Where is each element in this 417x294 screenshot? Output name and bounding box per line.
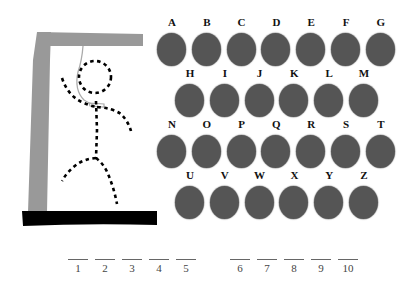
letter-key-b[interactable]: B: [192, 16, 222, 66]
letter-key-label: S: [331, 118, 361, 131]
letter-key-n[interactable]: N: [157, 118, 187, 168]
letter-key-t[interactable]: T: [366, 118, 396, 168]
blank-position-number: 4: [149, 262, 169, 275]
letter-key-button[interactable]: [296, 33, 325, 66]
letter-key-button[interactable]: [210, 186, 239, 219]
letter-key-button[interactable]: [245, 186, 274, 219]
blank-position-number: 10: [338, 262, 358, 275]
letter-key-label: C: [227, 16, 257, 29]
blank-underline: [257, 259, 277, 260]
letter-key-s[interactable]: S: [331, 118, 361, 168]
letter-key-button[interactable]: [279, 186, 308, 219]
gallows-post: [28, 32, 51, 212]
blank-underline: [149, 259, 169, 260]
letter-key-button[interactable]: [279, 84, 308, 117]
letter-key-button[interactable]: [157, 135, 186, 168]
blank-position-number: 3: [122, 262, 142, 275]
letter-key-label: D: [261, 16, 291, 29]
letter-key-button[interactable]: [366, 135, 395, 168]
gallows-drawing: [0, 0, 160, 235]
letter-key-g[interactable]: G: [366, 16, 396, 66]
letter-key-z[interactable]: Z: [349, 169, 379, 219]
blank-position-number: 6: [230, 262, 250, 275]
letter-key-button[interactable]: [192, 33, 221, 66]
letter-key-button[interactable]: [314, 84, 343, 117]
letter-blank-7: 7: [257, 259, 277, 281]
letter-key-button[interactable]: [227, 33, 256, 66]
letter-key-label: B: [192, 16, 222, 29]
letter-key-button[interactable]: [192, 135, 221, 168]
letter-key-f[interactable]: F: [331, 16, 361, 66]
blank-underline: [95, 259, 115, 260]
letter-key-m[interactable]: M: [349, 67, 379, 117]
letter-blank-3: 3: [122, 259, 142, 281]
letter-key-w[interactable]: W: [245, 169, 275, 219]
letter-key-y[interactable]: Y: [314, 169, 344, 219]
letter-key-button[interactable]: [227, 135, 256, 168]
letter-key-button[interactable]: [349, 186, 378, 219]
letter-key-x[interactable]: X: [279, 169, 309, 219]
letter-key-button[interactable]: [331, 33, 360, 66]
letter-key-label: I: [210, 67, 240, 80]
letter-key-button[interactable]: [261, 33, 290, 66]
figure-body: [96, 101, 97, 158]
letter-key-label: Z: [349, 169, 379, 182]
figure-right-leg: [96, 158, 117, 204]
blank-underline: [68, 259, 88, 260]
letter-key-button[interactable]: [175, 186, 204, 219]
blank-underline: [230, 259, 250, 260]
letter-key-label: V: [210, 169, 240, 182]
blank-position-number: 9: [311, 262, 331, 275]
letter-key-a[interactable]: A: [157, 16, 187, 66]
letter-key-label: Q: [261, 118, 291, 131]
letter-key-label: Y: [314, 169, 344, 182]
letter-key-q[interactable]: Q: [261, 118, 291, 168]
blank-underline: [176, 259, 196, 260]
letter-key-label: K: [279, 67, 309, 80]
letter-key-label: A: [157, 16, 187, 29]
letter-key-j[interactable]: J: [245, 67, 275, 117]
letter-key-label: E: [296, 16, 326, 29]
letter-key-button[interactable]: [349, 84, 378, 117]
figure-right-arm: [97, 107, 131, 131]
letter-key-c[interactable]: C: [227, 16, 257, 66]
letter-key-button[interactable]: [314, 186, 343, 219]
hangman-game: ABCDEFGHIJKLMNOPQRSTUVWXYZ 12345678910: [0, 0, 417, 294]
blank-underline: [311, 259, 331, 260]
letter-key-label: F: [331, 16, 361, 29]
letter-key-button[interactable]: [331, 135, 360, 168]
letter-key-label: P: [227, 118, 257, 131]
letter-blank-6: 6: [230, 259, 250, 281]
letter-key-label: J: [245, 67, 275, 80]
letter-key-label: X: [279, 169, 309, 182]
letter-key-button[interactable]: [296, 135, 325, 168]
letter-key-d[interactable]: D: [261, 16, 291, 66]
letter-blank-5: 5: [176, 259, 196, 281]
letter-key-button[interactable]: [261, 135, 290, 168]
figure-left-leg: [62, 158, 96, 181]
letter-key-label: W: [245, 169, 275, 182]
letter-key-h[interactable]: H: [175, 67, 205, 117]
letter-key-button[interactable]: [210, 84, 239, 117]
letter-blank-4: 4: [149, 259, 169, 281]
letter-key-label: O: [192, 118, 222, 131]
gallows-beam: [37, 32, 143, 46]
letter-blank-10: 10: [338, 259, 358, 281]
letter-key-i[interactable]: I: [210, 67, 240, 117]
letter-key-label: N: [157, 118, 187, 131]
letter-key-button[interactable]: [175, 84, 204, 117]
letter-key-k[interactable]: K: [279, 67, 309, 117]
letter-key-button[interactable]: [157, 33, 186, 66]
letter-key-e[interactable]: E: [296, 16, 326, 66]
blank-underline: [338, 259, 358, 260]
letter-key-o[interactable]: O: [192, 118, 222, 168]
letter-key-button[interactable]: [366, 33, 395, 66]
letter-key-l[interactable]: L: [314, 67, 344, 117]
letter-blank-8: 8: [284, 259, 304, 281]
letter-key-button[interactable]: [245, 84, 274, 117]
letter-key-v[interactable]: V: [210, 169, 240, 219]
letter-key-r[interactable]: R: [296, 118, 326, 168]
letter-key-u[interactable]: U: [175, 169, 205, 219]
letter-key-p[interactable]: P: [227, 118, 257, 168]
letter-blank-2: 2: [95, 259, 115, 281]
